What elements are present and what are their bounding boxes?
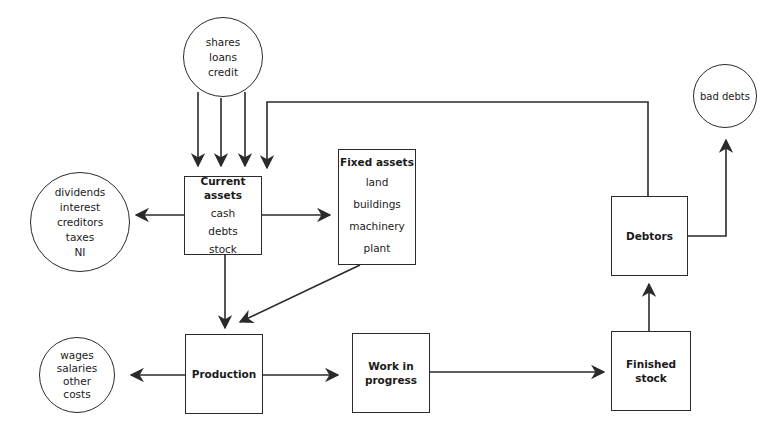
costs-item: salaries (57, 362, 97, 375)
sources-node: shares loans credit (183, 17, 263, 97)
finished-stock-node: Finished stock (611, 331, 691, 411)
wip-title-line: Work in (368, 359, 413, 373)
production-node: Production (185, 334, 263, 414)
fixed-assets-title: Fixed assets (340, 155, 414, 169)
sources-item: shares (206, 35, 241, 50)
fixed-assets-node: Fixed assets land buildings machinery pl… (338, 149, 416, 265)
sources-item: credit (208, 65, 238, 80)
current-assets-node: Current assets cash debts stock (184, 176, 262, 255)
debtors-node: Debtors (611, 196, 688, 276)
current-assets-item: debts (208, 222, 237, 240)
costs-item: wages (60, 349, 94, 362)
fixed-assets-item: buildings (353, 193, 401, 215)
debtors-title: Debtors (626, 229, 673, 243)
current-assets-item: stock (209, 240, 237, 258)
sources-item: loans (209, 50, 237, 65)
edge-fixed-production (240, 265, 360, 322)
edge-debtors-baddebts (687, 140, 726, 236)
production-title: Production (192, 367, 257, 381)
outflows-item: NI (75, 245, 86, 260)
edge-debtors-current (267, 102, 648, 196)
current-assets-item: cash (211, 204, 235, 222)
bad-debts-item: bad debts (700, 89, 750, 104)
outflows-item: interest (60, 200, 100, 215)
outflows-item: dividends (55, 185, 106, 200)
outflows-node: dividends interest creditors taxes NI (30, 172, 130, 272)
outflows-item: taxes (66, 230, 94, 245)
costs-item: other (63, 375, 91, 388)
outflows-item: creditors (57, 215, 103, 230)
current-assets-title: Current assets (185, 174, 261, 202)
bad-debts-node: bad debts (693, 64, 757, 128)
fixed-assets-item: land (366, 171, 389, 193)
wip-node: Work in progress (352, 333, 430, 413)
fixed-assets-item: plant (364, 237, 391, 259)
costs-item: costs (63, 388, 90, 401)
wip-title-line: progress (365, 373, 417, 387)
fixed-assets-item: machinery (349, 215, 405, 237)
finished-stock-title: Finished stock (612, 357, 690, 385)
costs-node: wages salaries other costs (39, 337, 115, 413)
